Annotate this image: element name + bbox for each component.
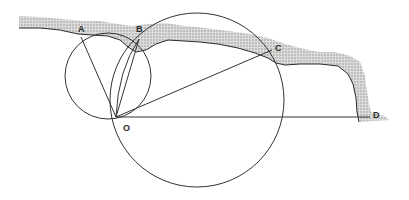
coastline [19,16,390,122]
small-circle-AOB [65,33,151,119]
segment-OC [116,50,272,117]
segment-OB [116,39,139,117]
segment-OA [81,37,116,117]
label-C: C [275,43,282,53]
label-A: A [78,24,85,34]
label-B: B [136,24,143,34]
label-O: O [123,123,130,133]
coastline-shaded-strip [19,16,390,122]
geometry-diagram: A B C O D [0,0,409,200]
coastline-shore-edge [19,28,359,122]
label-D: D [373,110,380,120]
